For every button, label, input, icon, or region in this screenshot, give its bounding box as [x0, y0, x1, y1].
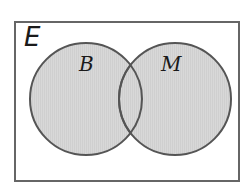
- universe-label: E: [24, 22, 41, 52]
- set-m-label: M: [160, 52, 182, 76]
- venn-diagram: E B M: [0, 0, 249, 188]
- set-b-label: B: [78, 52, 94, 76]
